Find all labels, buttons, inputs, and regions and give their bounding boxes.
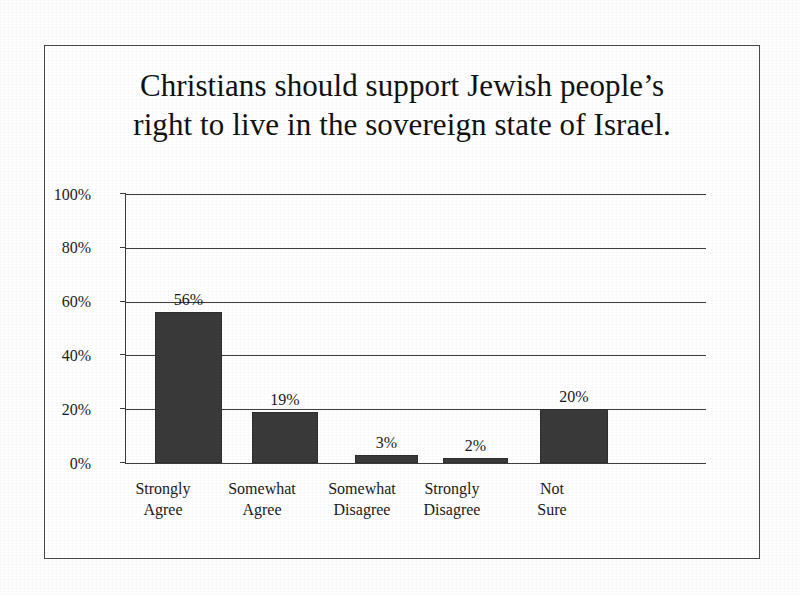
bar-strongly-agree[interactable] bbox=[155, 312, 222, 463]
bar-value-strongly-agree: 56% bbox=[135, 292, 242, 308]
y-axis-label-80: 80% bbox=[62, 240, 91, 256]
bar-somewhat-disagree[interactable] bbox=[355, 455, 418, 463]
gridline-80 bbox=[125, 248, 706, 249]
y-axis-label-0: 0% bbox=[70, 456, 91, 472]
bar-somewhat-agree[interactable] bbox=[252, 412, 318, 463]
scanned-page: Christians should support Jewish people’… bbox=[0, 0, 800, 595]
y-axis-label-40: 40% bbox=[62, 348, 91, 364]
bar-value-not-sure: 20% bbox=[520, 389, 628, 405]
y-axis-label-100: 100% bbox=[54, 187, 91, 203]
gridline-100 bbox=[125, 194, 706, 195]
y-axis-label-60: 60% bbox=[62, 294, 91, 310]
plot-area bbox=[125, 194, 706, 463]
x-axis-label-strongly-disagree: Strongly Disagree bbox=[390, 478, 514, 520]
gridline-0 bbox=[125, 463, 706, 464]
bar-value-strongly-disagree: 2% bbox=[423, 438, 528, 454]
bar-value-somewhat-agree: 19% bbox=[232, 392, 338, 408]
bar-strongly-disagree[interactable] bbox=[443, 458, 508, 463]
y-axis-label-20: 20% bbox=[62, 402, 91, 418]
bar-chart: 100% 80% 60% 40% 20% 0% 56% 19% 3% 2% 20… bbox=[0, 0, 800, 595]
bar-not-sure[interactable] bbox=[540, 409, 608, 463]
x-axis-label-not-sure: Not Sure bbox=[497, 478, 607, 520]
